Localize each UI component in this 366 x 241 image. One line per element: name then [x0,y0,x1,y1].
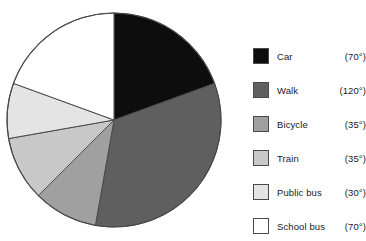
legend-value: (120°) [339,85,366,96]
chart-legend: Car(70°)Walk(120°)Bicycle(35°)Train(35°)… [253,38,366,238]
legend-swatch-icon [253,184,269,200]
legend-value: (30°) [345,187,366,198]
legend-row: School bus(70°) [253,216,366,236]
legend-swatch-icon [253,150,269,166]
legend-label: Public bus [277,187,322,198]
legend-row: Car(70°) [253,46,366,66]
legend-value: (35°) [345,153,366,164]
pie-chart-figure: Car(70°)Walk(120°)Bicycle(35°)Train(35°)… [0,0,366,241]
legend-swatch-icon [253,48,269,64]
legend-label: School bus [277,221,325,232]
legend-swatch-icon [253,116,269,132]
pie-chart-svg [0,0,240,241]
legend-label: Car [277,51,293,62]
legend-value: (70°) [345,51,366,62]
legend-swatch-icon [253,218,269,234]
legend-label: Bicycle [277,119,308,130]
legend-label: Train [277,153,299,164]
legend-label: Walk [277,85,298,96]
legend-row: Public bus(30°) [253,182,366,202]
legend-row: Bicycle(35°) [253,114,366,134]
legend-swatch-icon [253,82,269,98]
legend-row: Walk(120°) [253,80,366,100]
legend-value: (70°) [345,221,366,232]
legend-row: Train(35°) [253,148,366,168]
pie-chart-area [0,0,240,241]
legend-value: (35°) [345,119,366,130]
